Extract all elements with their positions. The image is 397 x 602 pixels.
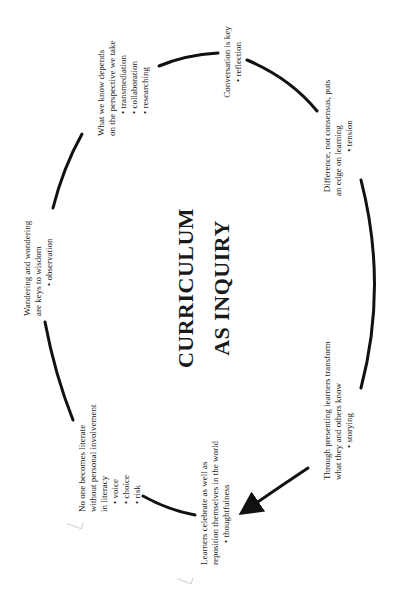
title-line-1: CURRICULUM [168,198,204,378]
node-text: Conversation is key [222,24,233,100]
arc-upper-left [53,134,82,208]
node-text: Wandering and wondering [22,221,33,316]
arc-top-right [247,60,317,111]
bullet-item: researching [140,41,151,136]
bullet-item: collaboration [129,41,140,136]
node-text: Difference, not consensus, puts [322,76,333,196]
node-text: an edge on learning [333,76,344,196]
node-literate: No one becomes literate without personal… [77,405,143,512]
bullet-item: tension [344,76,355,196]
node-text: Learners celebrate as well as [199,441,210,565]
node-text: are keys to wisdom [33,221,44,316]
node-text: What we know depends [96,41,107,136]
node-wandering: Wandering and wondering are keys to wisd… [22,221,55,316]
arc-top-left [159,53,218,66]
node-celebrate: Learners celebrate as well as reposition… [199,441,232,565]
arc-bottom-right-arrow [246,468,308,510]
node-text: without personal involvement [88,405,99,512]
bullet-item: risk [132,405,143,512]
node-perspective: What we know depends on the perspective … [96,41,151,136]
node-difference: Difference, not consensus, puts an edge … [322,76,355,196]
bullet-item: voice [110,405,121,512]
node-text: No one becomes literate [77,405,88,512]
node-text: what they and others know [333,341,344,480]
node-conversation: Conversation is key reflection [222,24,244,100]
node-text: reposition themselves in the world [210,441,221,565]
bullet-item: transmediation [118,41,129,136]
arc-right [361,180,375,388]
node-text: in literacy [99,405,110,512]
arc-lower-left [45,322,73,420]
node-text: on the perspective we take [107,41,118,136]
bullet-item: storying [344,341,355,480]
node-presenting: Through presenting learners transform wh… [322,341,355,480]
bullet-item: reflection [233,24,244,100]
title-line-2: AS INQUIRY [204,198,240,378]
bullet-item: choice [121,405,132,512]
diagram-title: CURRICULUM AS INQUIRY [168,198,240,378]
bullet-item: thoughtfulness [221,441,232,565]
bullet-item: observation [44,221,55,316]
node-text: Through presenting learners transform [322,341,333,480]
arc-bottom [143,496,195,515]
